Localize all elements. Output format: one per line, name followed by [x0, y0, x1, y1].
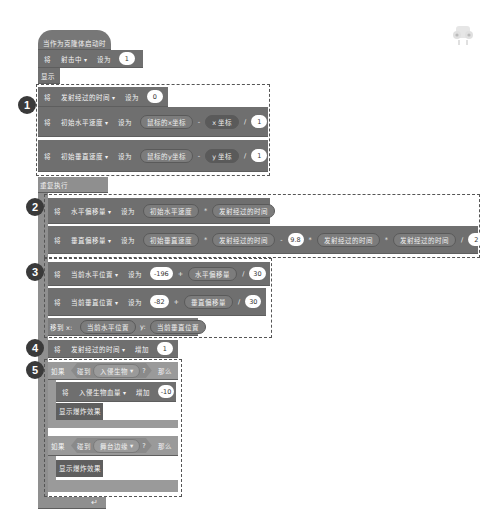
- touching-condition[interactable]: 碰到 舞台边缘 ▾ ?: [71, 438, 152, 453]
- change-invader-hp-block[interactable]: 将 入侵生物血量 增加 -10: [56, 382, 176, 402]
- if-1-end: [48, 420, 178, 428]
- variable-dropdown[interactable]: 发射经过的时间: [57, 92, 119, 102]
- if-2-end: [48, 480, 178, 492]
- set-initial-vx-block[interactable]: 将 初始水平速度 设为 鼠标的x坐标 - x 坐标 / 1: [38, 107, 268, 137]
- mouse-x-reporter[interactable]: 鼠标的x坐标: [140, 115, 193, 129]
- value-input[interactable]: 30: [249, 267, 265, 280]
- launch-time-reporter[interactable]: 发射经过的时间: [212, 233, 275, 247]
- forever-loop-end: ↵: [38, 497, 106, 509]
- value-input[interactable]: 1: [251, 115, 267, 128]
- variable-dropdown[interactable]: 当前水平位置: [67, 269, 122, 279]
- set-x-block[interactable]: 将 当前水平位置 设为 -196 + 水平偏移量 / 30: [48, 262, 270, 286]
- value-input[interactable]: 1: [157, 342, 173, 355]
- value-input[interactable]: 0: [147, 90, 163, 103]
- variable-dropdown[interactable]: 水平偏移量: [67, 206, 115, 216]
- sprite-thumbnail-icon[interactable]: [450, 24, 476, 46]
- x-position-reporter[interactable]: x 坐标: [205, 115, 239, 129]
- variable-dropdown[interactable]: 射击中: [57, 54, 91, 64]
- set-launch-time-block[interactable]: 将 发射经过的时间 设为 0: [38, 87, 168, 107]
- show-explosion-block-1[interactable]: 显示爆炸效果: [56, 403, 103, 420]
- launch-time-reporter[interactable]: 发射经过的时间: [393, 233, 456, 247]
- y-position-reporter[interactable]: y 坐标: [205, 149, 239, 163]
- goto-xy-block[interactable]: 移到 x: 当前水平位置 y: 当前垂直位置: [48, 318, 198, 336]
- step-badge-4: 4: [26, 339, 44, 357]
- show-block[interactable]: 显示: [38, 68, 60, 84]
- when-clone-start-hat[interactable]: 当作为克隆体启动时: [38, 30, 111, 50]
- launch-time-reporter[interactable]: 发射经过的时间: [317, 233, 380, 247]
- initial-vx-reporter[interactable]: 初始水平速度: [143, 204, 199, 218]
- set-initial-vy-block[interactable]: 将 初始垂直速度 设为 鼠标的y坐标 - y 坐标 / 1: [38, 140, 268, 172]
- dy-reporter[interactable]: 垂直偏移量: [184, 295, 233, 309]
- target-dropdown[interactable]: 入侵生物 ▾: [93, 364, 140, 378]
- current-y-reporter[interactable]: 当前垂直位置: [150, 320, 206, 334]
- change-launch-time-block[interactable]: 将 发射经过的时间 增加 1: [48, 340, 178, 358]
- value-input[interactable]: 1: [119, 52, 135, 65]
- touching-condition[interactable]: 碰到 入侵生物 ▾ ?: [71, 363, 152, 378]
- variable-dropdown[interactable]: 垂直偏移量: [67, 235, 115, 245]
- value-input[interactable]: -82: [150, 295, 169, 308]
- step-badge-5: 5: [26, 361, 44, 379]
- if-touching-invader-block[interactable]: 如果 碰到 入侵生物 ▾ ? 那么: [48, 362, 178, 380]
- set-dx-block[interactable]: 将 水平偏移量 设为 初始水平速度 * 发射经过的时间: [48, 198, 270, 224]
- value-input[interactable]: 1: [251, 149, 267, 162]
- show-explosion-block-2[interactable]: 显示爆炸效果: [56, 460, 103, 477]
- set-shooting-block[interactable]: 将 射击中 设为 1: [38, 50, 143, 68]
- set-dy-block[interactable]: 将 垂直偏移量 设为 初始垂直速度 * 发射经过的时间 - 9.8 * 发射经过…: [48, 226, 478, 254]
- variable-dropdown[interactable]: 当前垂直位置: [67, 297, 122, 307]
- launch-time-reporter[interactable]: 发射经过的时间: [212, 204, 275, 218]
- value-input[interactable]: 2: [468, 233, 484, 246]
- forever-block[interactable]: 重复执行: [38, 177, 108, 193]
- variable-dropdown[interactable]: 初始水平速度: [57, 117, 112, 127]
- value-input[interactable]: -196: [150, 267, 173, 280]
- step-badge-1: 1: [18, 96, 36, 114]
- variable-dropdown[interactable]: 入侵生物血量: [75, 387, 130, 397]
- mouse-y-reporter[interactable]: 鼠标的y坐标: [140, 149, 193, 163]
- value-input[interactable]: -10: [158, 385, 174, 398]
- value-input[interactable]: 30: [245, 295, 261, 308]
- variable-dropdown[interactable]: 初始垂直速度: [57, 151, 112, 161]
- dx-reporter[interactable]: 水平偏移量: [188, 267, 237, 281]
- initial-vy-reporter[interactable]: 初始垂直速度: [143, 233, 199, 247]
- if-touching-edge-block[interactable]: 如果 碰到 舞台边缘 ▾ ? 那么: [48, 436, 178, 456]
- set-y-block[interactable]: 将 当前垂直位置 设为 -82 + 垂直偏移量 / 30: [48, 288, 266, 316]
- current-x-reporter[interactable]: 当前水平位置: [80, 320, 136, 334]
- gravity-input[interactable]: 9.8: [288, 233, 304, 246]
- target-dropdown[interactable]: 舞台边缘 ▾: [93, 439, 140, 453]
- step-badge-3: 3: [26, 263, 44, 281]
- step-badge-2: 2: [26, 198, 44, 216]
- loop-arrow-icon: ↵: [91, 498, 98, 507]
- variable-dropdown[interactable]: 发射经过的时间: [67, 344, 129, 354]
